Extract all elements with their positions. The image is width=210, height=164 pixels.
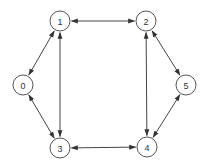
node-0: 0 <box>13 75 33 95</box>
node-label: 4 <box>144 143 149 153</box>
edge-2-5 <box>152 31 180 75</box>
node-label: 1 <box>57 17 62 27</box>
edge-0-3 <box>29 95 54 138</box>
node-label: 3 <box>57 144 62 154</box>
node-5: 5 <box>176 75 196 95</box>
node-3: 3 <box>50 138 70 158</box>
node-label: 2 <box>143 17 148 27</box>
edge-2-4 <box>146 33 147 136</box>
edge-4-5 <box>153 95 180 138</box>
node-label: 0 <box>20 81 25 91</box>
node-1: 1 <box>50 11 70 31</box>
edges-group <box>29 21 180 148</box>
graph-diagram: 012345 <box>0 0 210 164</box>
node-label: 5 <box>183 81 188 91</box>
edge-0-1 <box>29 31 54 75</box>
edge-3-4 <box>72 147 136 148</box>
node-2: 2 <box>136 11 156 31</box>
nodes-group: 012345 <box>13 11 196 158</box>
node-4: 4 <box>137 137 157 157</box>
